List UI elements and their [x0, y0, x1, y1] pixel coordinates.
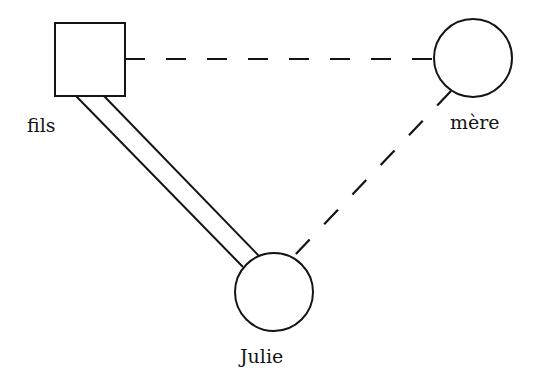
node-fils: fils — [27, 23, 125, 136]
circle-node-icon — [434, 19, 512, 97]
edge-mere-julie — [294, 91, 451, 256]
node-label-fils: fils — [27, 114, 56, 136]
node-julie: Julie — [235, 253, 313, 367]
node-mere: mère — [434, 19, 512, 133]
circle-node-icon — [235, 253, 313, 331]
node-label-julie: Julie — [238, 345, 283, 367]
relationship-diagram: fils mère Julie — [0, 0, 533, 385]
edge-fils-julie — [76, 96, 259, 267]
node-label-mere: mère — [450, 111, 500, 133]
square-node-icon — [55, 23, 125, 96]
dashed-line-mere-julie — [294, 91, 451, 256]
double-line-left — [76, 96, 243, 267]
double-line-right — [104, 96, 259, 256]
